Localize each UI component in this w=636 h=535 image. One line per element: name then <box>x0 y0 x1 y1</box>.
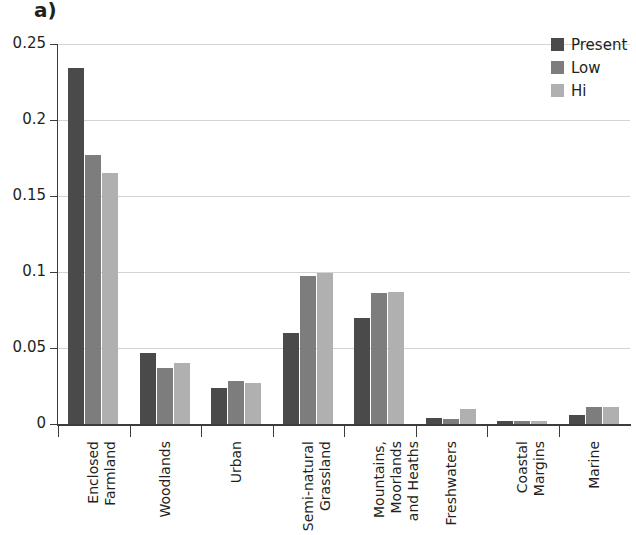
bar <box>497 421 513 424</box>
y-tick-label: 0.05 <box>13 338 46 356</box>
x-axis-separator <box>58 426 59 437</box>
bar <box>569 415 585 424</box>
x-axis-label: Semi-natural Grassland <box>300 441 334 535</box>
legend-item: Present <box>551 33 627 56</box>
plot-area <box>58 44 630 424</box>
bar <box>371 293 387 424</box>
bar <box>283 333 299 424</box>
x-axis-separator <box>201 426 202 437</box>
bar <box>245 383 261 424</box>
legend-swatch-icon <box>551 84 564 97</box>
x-axis-label: Urban <box>228 441 245 535</box>
bar-group <box>140 44 190 424</box>
bar-group <box>497 44 547 424</box>
bar <box>317 273 333 424</box>
bar-group <box>354 44 404 424</box>
x-axis-label: Marine <box>586 441 603 535</box>
bar <box>68 68 84 424</box>
bar <box>228 381 244 424</box>
bar-group <box>283 44 333 424</box>
legend-item: Hi <box>551 79 627 102</box>
y-tick-label: 0.25 <box>13 34 46 52</box>
bar <box>354 318 370 424</box>
x-axis-label: Coastal Margins <box>514 441 548 535</box>
bar <box>531 421 547 424</box>
panel-label: a) <box>34 0 57 22</box>
bar-group <box>426 44 476 424</box>
bar <box>174 363 190 424</box>
bar <box>157 368 173 424</box>
bar-group <box>68 44 118 424</box>
bar <box>300 276 316 424</box>
x-axis-separator <box>559 426 560 437</box>
bar <box>388 292 404 424</box>
x-axis-separator <box>416 426 417 437</box>
legend-swatch-icon <box>551 61 564 74</box>
x-axis-separator <box>344 426 345 437</box>
x-axis-separator <box>273 426 274 437</box>
bar <box>586 407 602 424</box>
legend-label: Low <box>571 59 601 77</box>
y-tick-label: 0.15 <box>13 186 46 204</box>
x-axis-label: Freshwaters <box>443 441 460 535</box>
x-axis-separator <box>487 426 488 437</box>
legend-swatch-icon <box>551 38 564 51</box>
legend-label: Present <box>571 36 627 54</box>
legend: PresentLowHi <box>551 33 627 102</box>
legend-item: Low <box>551 56 627 79</box>
x-axis-separator <box>130 426 131 437</box>
bar <box>603 407 619 424</box>
y-tick-label: 0.1 <box>22 262 46 280</box>
bar <box>85 155 101 424</box>
bar <box>514 421 530 424</box>
bar <box>102 173 118 424</box>
legend-label: Hi <box>571 82 586 100</box>
x-axis-label: Woodlands <box>157 441 174 535</box>
bar <box>443 419 459 424</box>
bar <box>211 388 227 424</box>
bar <box>140 353 156 424</box>
y-tick-label: 0.2 <box>22 110 46 128</box>
x-axis-label: Mountains, Moorlands and Heaths <box>371 441 422 535</box>
x-axis-label: Enclosed Farmland <box>85 441 119 535</box>
bar <box>460 409 476 424</box>
bar-group <box>211 44 261 424</box>
bar <box>426 418 442 424</box>
y-tick-label: 0 <box>36 414 46 432</box>
